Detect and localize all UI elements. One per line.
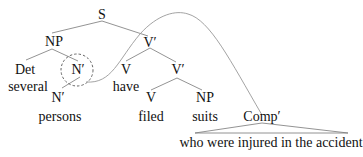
node-nbar-circled: N′ — [71, 63, 84, 77]
word-filed: filed — [138, 110, 164, 124]
branch-np-nbar — [52, 49, 78, 61]
node-vbar-lower: V′ — [171, 63, 184, 77]
triangle-left — [195, 123, 262, 133]
word-several: several — [8, 80, 48, 94]
word-have: have — [113, 80, 139, 94]
node-np-subject: NP — [45, 35, 63, 49]
node-nbar-lower: N′ — [51, 91, 64, 105]
triangle-right — [262, 123, 348, 133]
node-np-object: NP — [196, 91, 214, 105]
branch-vbar-np — [177, 78, 202, 90]
branch-np-det — [26, 49, 52, 60]
node-vbar-top: V′ — [143, 36, 156, 50]
node-v-filed: V — [146, 91, 156, 105]
node-comp-bar: Comp′ — [243, 110, 280, 124]
word-suits: suits — [192, 110, 218, 124]
node-det: Det — [15, 63, 35, 77]
node-v-have: V — [121, 63, 131, 77]
word-persons: persons — [39, 110, 82, 124]
branch-vbar-vbar — [150, 48, 176, 62]
comp-yield-text: who were injured in the accident — [179, 136, 362, 150]
branch-s-vbar — [102, 21, 148, 36]
branch-s-np — [52, 21, 102, 33]
node-s: S — [98, 8, 106, 22]
branch-vbar-v-filed — [151, 78, 177, 90]
